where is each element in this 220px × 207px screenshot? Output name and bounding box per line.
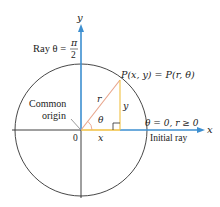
- x-leg-label: x: [98, 132, 104, 143]
- initial-condition-label: θ = 0, r ≥ 0: [145, 118, 199, 128]
- y-leg-label: y: [122, 100, 129, 111]
- ray-pi2-label: Ray θ =: [33, 43, 66, 54]
- common-label: Common: [29, 98, 66, 109]
- theta-arc: [88, 122, 92, 131]
- point-label: P(x, y) = P(r, θ): [120, 69, 195, 80]
- initial-ray-label: Initial ray: [150, 133, 187, 143]
- y-axis-label: y: [76, 12, 83, 23]
- polar-coordinate-diagram: y x Ray θ = π 2 P(x, y) = P(r, θ) r θ y …: [0, 0, 220, 207]
- common-origin-pointer: [71, 119, 80, 129]
- origin-label: origin: [42, 110, 66, 121]
- theta-label: θ: [98, 115, 104, 125]
- right-angle-marker: [113, 123, 120, 130]
- x-axis-label: x: [207, 124, 213, 135]
- origin-zero-label: 0: [73, 133, 78, 143]
- y-arrow-icon: [78, 24, 84, 32]
- two-denominator: 2: [71, 50, 76, 60]
- pi-numerator: π: [70, 37, 78, 48]
